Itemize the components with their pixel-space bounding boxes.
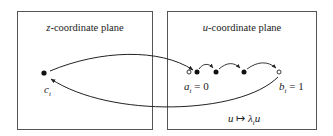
map-right: u — [255, 112, 261, 124]
label-b-t: bt = 1 — [279, 80, 304, 95]
label-a-t: at = 0 — [184, 80, 209, 95]
z-plane-title-text: -coordinate plane — [50, 22, 123, 33]
label-c-t: ct — [44, 83, 51, 98]
b-eq: = 1 — [286, 80, 303, 92]
z-plane-title: z-coordinate plane — [18, 22, 152, 33]
c-sub: t — [49, 90, 51, 98]
u-plane-title-text: -coordinate plane — [208, 22, 281, 33]
a-eq: = 0 — [191, 80, 208, 92]
map-label: u ↦ λtu — [228, 112, 260, 127]
maps-to-arrow: ↦ — [234, 112, 249, 124]
z-coordinate-plane: z-coordinate plane — [17, 11, 153, 130]
u-plane-title: u-coordinate plane — [168, 22, 316, 33]
